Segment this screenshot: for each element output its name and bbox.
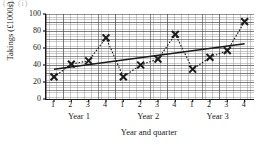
- data-line-dashed: [54, 22, 245, 77]
- y-tick-label: 0: [23, 95, 41, 103]
- x-tick-label: 1: [115, 101, 129, 109]
- x-tick-label: 3: [81, 101, 95, 109]
- x-tick-label: 3: [150, 101, 164, 109]
- y-tick-label: 20: [23, 78, 41, 86]
- data-point-marker: [85, 57, 92, 64]
- x-tick-label: 3: [219, 101, 233, 109]
- series-layer: [46, 14, 254, 99]
- y-axis-tick-labels: 020406080100: [21, 0, 41, 145]
- y-tick-label: 40: [23, 61, 41, 69]
- year-group-label: Year 1: [49, 112, 109, 121]
- x-tick-label: 4: [98, 101, 112, 109]
- data-point-marker: [172, 31, 179, 38]
- data-point-marker: [189, 66, 196, 73]
- y-tick-label: 80: [23, 27, 41, 35]
- x-tick-label: 2: [133, 101, 147, 109]
- chart-figure: (a) (i) Takings (£1000s) 020406080100 12…: [0, 0, 263, 145]
- x-tick-label: 1: [185, 101, 199, 109]
- x-tick-label: 4: [237, 101, 251, 109]
- data-point-marker: [137, 62, 144, 69]
- data-point-marker: [224, 47, 231, 54]
- y-tick-label: 100: [23, 10, 41, 18]
- x-tick-label: 4: [167, 101, 181, 109]
- y-tick-label: 60: [23, 44, 41, 52]
- plot-area: [45, 14, 254, 100]
- year-group-label: Year 3: [188, 112, 248, 121]
- x-tick-label: 2: [202, 101, 216, 109]
- x-tick-label: 1: [46, 101, 60, 109]
- data-point-marker: [155, 56, 162, 63]
- x-tick-label: 2: [63, 101, 77, 109]
- data-point-marker: [241, 18, 248, 25]
- data-point-marker: [207, 54, 214, 61]
- data-point-marker: [120, 74, 127, 81]
- data-point-marker: [103, 34, 110, 41]
- x-axis-title: Year and quarter: [45, 127, 253, 137]
- year-group-label: Year 2: [118, 112, 178, 121]
- y-axis-title: Takings (£1000s): [5, 0, 15, 71]
- trend-line: [54, 44, 245, 70]
- x-axis-group-labels: Year 1Year 2Year 3: [45, 112, 253, 124]
- data-point-marker: [51, 74, 58, 81]
